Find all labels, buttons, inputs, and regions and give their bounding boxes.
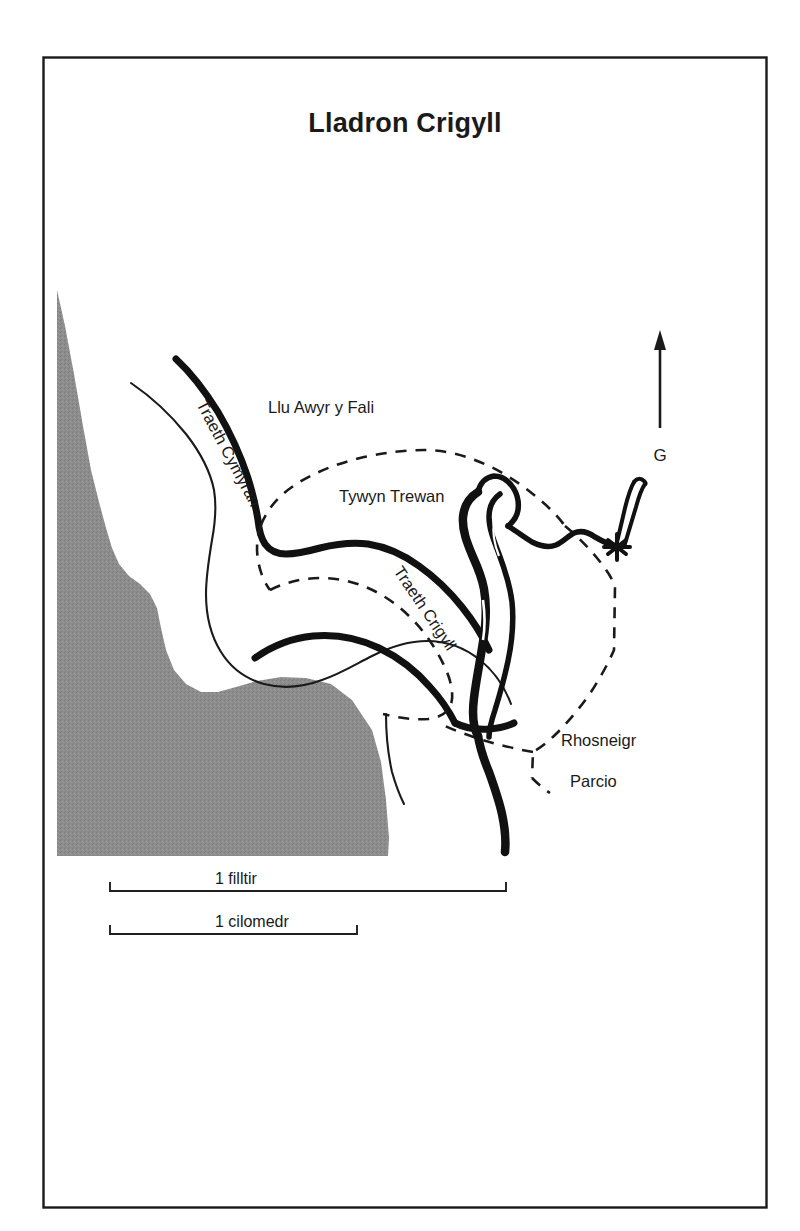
label-rhosneigr: Rhosneigr	[561, 731, 637, 749]
map-figure: Lladron Crigyll	[0, 0, 800, 1231]
mile-scale-label: 1 filltir	[215, 870, 257, 887]
page-title: Lladron Crigyll	[308, 108, 502, 138]
label-llu-awyr-y-fali: Llu Awyr y Fali	[268, 398, 374, 416]
label-tywyn-trewan: Tywyn Trewan	[339, 487, 444, 505]
north-arrow-label: G	[653, 446, 666, 465]
label-parcio: Parcio	[570, 772, 617, 790]
kilometre-scale-label: 1 cilomedr	[215, 913, 289, 930]
